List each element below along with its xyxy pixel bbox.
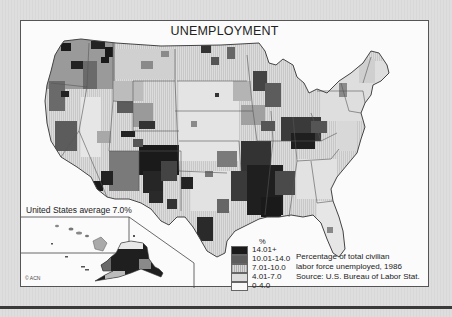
legend-label: 10.01-14.0 — [252, 254, 290, 263]
map-panel: UNEMPLOYMENT — [20, 20, 429, 287]
legend-item: 0-4.0 — [231, 282, 321, 291]
copyright-mark: © ACN — [25, 275, 40, 281]
us-average-label: United States average 7.0% — [26, 205, 132, 215]
legend-label: 0-4.0 — [252, 281, 270, 290]
alaska-inset — [51, 235, 171, 286]
map-caption: Percentage of total civilian labor force… — [296, 252, 420, 282]
legend-swatch — [231, 282, 248, 291]
hawaii-inset — [21, 217, 129, 253]
us-unemployment-map — [21, 21, 430, 288]
page-bottom-rule — [0, 306, 452, 309]
legend-swatch — [231, 255, 248, 264]
legend-swatch — [231, 246, 248, 255]
legend-swatch — [231, 273, 248, 282]
legend-label: 4.01-7.0 — [252, 272, 281, 281]
caption-line-1: Percentage of total civilian — [296, 252, 420, 262]
legend-label: 14.01+ — [252, 245, 277, 254]
caption-line-2: labor force unemployed, 1986 — [296, 262, 420, 272]
legend-swatch — [231, 264, 248, 273]
legend-label: 7.01-10.0 — [252, 263, 286, 272]
caption-source: Source: U.S. Bureau of Labor Stat. — [296, 272, 420, 282]
